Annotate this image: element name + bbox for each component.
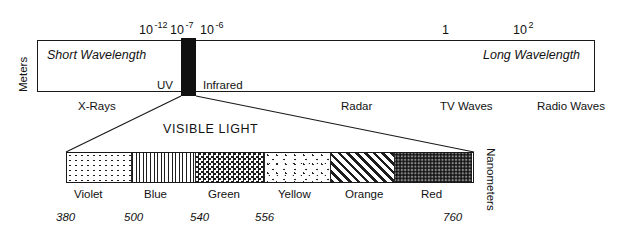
region-label-radar: Radar xyxy=(341,101,372,113)
short-wavelength-label: Short Wavelength xyxy=(47,49,146,62)
spectrum-band-yellow xyxy=(265,153,331,182)
spectrum-band-red xyxy=(395,153,472,182)
wavelength-value-540: 540 xyxy=(190,212,209,224)
electromagnetic-spectrum-diagram: Meters 10-12 10-7 10-6 1 102 Short Wavel… xyxy=(0,0,623,237)
spectrum-band-green xyxy=(196,153,265,182)
uv-label: UV xyxy=(157,80,173,92)
scale-tick-1e-6: 10-6 xyxy=(200,22,223,37)
scale-tick-1e-7: 10-7 xyxy=(170,22,193,37)
band-label-orange: Orange xyxy=(345,189,383,201)
region-label-tv-waves: TV Waves xyxy=(440,101,493,113)
visible-light-spectrum-bar xyxy=(66,152,474,183)
tick-exponent: 2 xyxy=(528,20,533,30)
tick-mantissa: 10 xyxy=(170,23,184,37)
spectrum-band-violet xyxy=(67,153,132,182)
wavelength-value-556: 556 xyxy=(255,212,274,224)
band-label-blue: Blue xyxy=(144,189,167,201)
nanometers-axis-label: Nanometers xyxy=(485,148,497,211)
visible-light-marker xyxy=(181,38,196,96)
scale-tick-1e-12: 10-12 xyxy=(139,22,167,37)
region-label-radio-waves: Radio Waves xyxy=(537,101,605,113)
band-label-green: Green xyxy=(208,189,240,201)
tick-mantissa: 10 xyxy=(200,23,214,37)
band-label-red: Red xyxy=(421,189,442,201)
spectrum-band-blue xyxy=(132,153,196,182)
band-label-yellow: Yellow xyxy=(278,189,311,201)
band-label-violet: Violet xyxy=(74,189,103,201)
scale-tick-1: 1 xyxy=(442,22,450,37)
tick-mantissa: 1 xyxy=(442,23,449,37)
visible-light-title: VISIBLE LIGHT xyxy=(163,123,258,136)
infrared-label: Infrared xyxy=(203,80,243,92)
long-wavelength-label: Long Wavelength xyxy=(483,49,580,62)
tick-exponent: -6 xyxy=(215,20,223,30)
scale-tick-1e2: 102 xyxy=(513,22,533,37)
wavelength-value-760: 760 xyxy=(443,212,462,224)
meters-axis-label: Meters xyxy=(18,57,30,92)
tick-mantissa: 10 xyxy=(139,23,153,37)
tick-exponent: -7 xyxy=(185,20,193,30)
spectrum-band-orange xyxy=(331,153,395,182)
wavelength-value-500: 500 xyxy=(124,212,143,224)
tick-exponent: -12 xyxy=(154,20,167,30)
wavelength-value-380: 380 xyxy=(56,212,75,224)
region-label-x-rays: X-Rays xyxy=(78,101,116,113)
tick-mantissa: 10 xyxy=(513,23,527,37)
